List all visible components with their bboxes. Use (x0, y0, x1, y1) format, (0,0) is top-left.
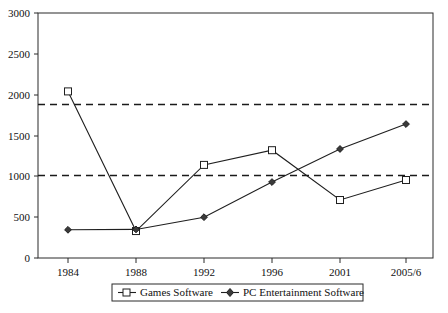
data-point-diamond-marker (337, 146, 344, 153)
series-markers-pc-entertainment-software (65, 121, 410, 234)
y-tick-500: 500 (14, 211, 39, 223)
series-line-games-software (68, 91, 406, 231)
data-point-square-marker (269, 147, 276, 154)
data-point-diamond-marker (65, 226, 72, 233)
data-point-diamond-marker (403, 121, 410, 128)
x-tick-label: 1996 (261, 266, 284, 278)
y-tick-label: 3000 (8, 7, 31, 19)
data-point-square-marker (65, 88, 72, 95)
y-axis: 0 500 1000 1500 2000 2500 (8, 7, 38, 264)
x-tick-1988: 1988 (125, 258, 148, 278)
x-tick-label: 1984 (57, 266, 80, 278)
chart-legend: Games Software PC Entertainment Software (112, 284, 364, 301)
x-tick-2001: 2001 (329, 258, 351, 278)
x-tick-label: 1988 (125, 266, 148, 278)
x-tick-2005-6: 2005/6 (391, 258, 422, 278)
data-point-diamond-marker (201, 214, 208, 221)
legend-entry-pc-entertainment-software[interactable]: PC Entertainment Software (221, 286, 364, 298)
x-tick-1984: 1984 (57, 258, 80, 278)
data-point-square-marker (337, 197, 344, 204)
plot-area-frame (38, 13, 433, 258)
data-point-square-marker (201, 161, 208, 168)
y-tick-label: 500 (14, 211, 31, 223)
x-axis: 1984 1988 1992 1996 2001 2005/6 (57, 258, 422, 278)
x-tick-label: 2005/6 (391, 266, 422, 278)
x-tick-1996: 1996 (261, 258, 284, 278)
data-point-square-marker (403, 177, 410, 184)
y-tick-1500: 1500 (8, 130, 38, 142)
chart-canvas: 0 500 1000 1500 2000 2500 (0, 0, 448, 313)
x-tick-label: 1992 (193, 266, 215, 278)
y-tick-label: 1000 (8, 170, 31, 182)
legend-label: PC Entertainment Software (243, 286, 364, 298)
y-tick-label: 2000 (8, 89, 31, 101)
y-tick-label: 2500 (8, 48, 31, 60)
x-tick-label: 2001 (329, 266, 351, 278)
line-chart: 0 500 1000 1500 2000 2500 (0, 0, 448, 313)
series-markers-games-software (65, 88, 410, 235)
y-tick-label: 0 (25, 252, 31, 264)
legend-label: Games Software (140, 286, 213, 298)
y-tick-3000: 3000 (8, 7, 38, 19)
y-tick-0: 0 (25, 252, 39, 264)
y-tick-2000: 2000 (8, 89, 38, 101)
series-line-pc-entertainment-software (68, 124, 406, 230)
y-tick-label: 1500 (8, 130, 31, 142)
x-tick-1992: 1992 (193, 258, 215, 278)
data-point-diamond-marker (269, 179, 276, 186)
y-tick-1000: 1000 (8, 170, 38, 182)
y-tick-2500: 2500 (8, 48, 38, 60)
legend-square-marker-icon (123, 289, 130, 296)
